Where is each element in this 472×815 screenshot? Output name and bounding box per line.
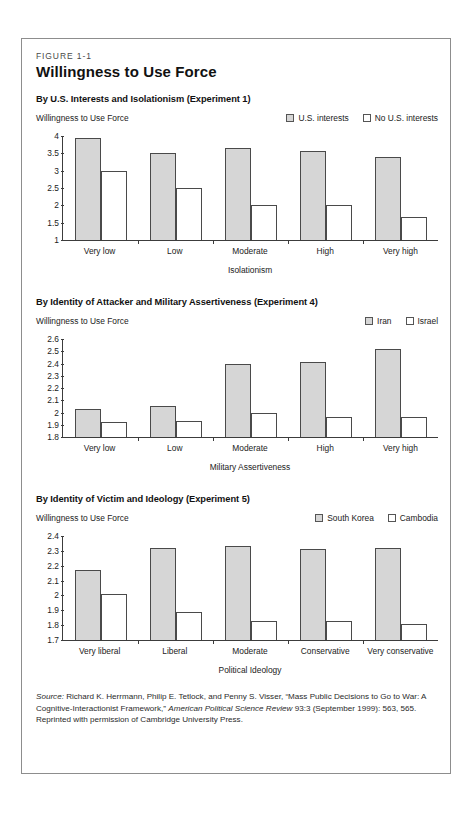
bar-groups	[63, 339, 438, 437]
bar-groups	[63, 136, 438, 240]
figure-title: Willingness to Use Force	[36, 63, 438, 80]
bar	[300, 151, 326, 240]
plot-canvas: 2.62.52.42.32.22.121.91.8	[62, 339, 438, 438]
y-axis-tick: 2	[54, 408, 63, 418]
x-axis-tick-label: Moderate	[212, 646, 287, 656]
legend-swatch-icon	[365, 317, 373, 325]
legend-label: Israel	[418, 316, 438, 326]
bar	[375, 349, 401, 437]
bar-group	[63, 339, 138, 437]
bar	[251, 621, 277, 640]
legend-swatch-icon	[406, 317, 414, 325]
chart-subtitle: By Identity of Attacker and Military Ass…	[36, 297, 438, 307]
bar	[401, 417, 427, 437]
legend-label: Cambodia	[400, 513, 438, 523]
x-axis-tick-label: Low	[137, 246, 212, 256]
bar-group	[363, 136, 438, 240]
x-axis-tick-label: Very low	[62, 246, 137, 256]
bar	[326, 621, 352, 640]
bar	[75, 409, 101, 437]
legend-item[interactable]: Cambodia	[388, 513, 438, 523]
bar	[225, 364, 251, 438]
y-axis-tick: 2.3	[47, 371, 63, 381]
legend-item[interactable]: Israel	[406, 316, 438, 326]
legend-swatch-icon	[363, 114, 371, 122]
bar-group	[363, 536, 438, 640]
x-axis-tick-label: Low	[137, 443, 212, 453]
source-note: Source: Richard K. Herrmann, Philip E. T…	[36, 691, 438, 726]
source-label: Source:	[36, 692, 64, 701]
bar	[101, 171, 127, 240]
bar-group	[213, 136, 288, 240]
y-axis-tick: 1.7	[47, 635, 63, 645]
y-axis-tick: 1.5	[47, 218, 63, 228]
y-axis-tick: 2.5	[47, 346, 63, 356]
bar	[150, 406, 176, 437]
x-axis-tick-label: Conservative	[288, 646, 363, 656]
legend-item[interactable]: Iran	[365, 316, 391, 326]
bar-group	[138, 339, 213, 437]
bar	[176, 421, 202, 437]
bar-group	[213, 339, 288, 437]
source-journal: American Political Science Review	[168, 704, 292, 713]
x-axis-tick-label: High	[288, 443, 363, 453]
bar	[300, 362, 326, 437]
bar-group	[213, 536, 288, 640]
chart-legend-row: IranIsrael	[36, 327, 438, 339]
legend-item[interactable]: No U.S. interests	[363, 113, 438, 123]
legend-item[interactable]: U.S. interests	[286, 113, 348, 123]
y-axis-tick: 2.2	[47, 383, 63, 393]
bar	[150, 153, 176, 240]
legend-swatch-icon	[286, 114, 294, 122]
figure-container: FIGURE 1-1 Willingness to Use Force By U…	[21, 38, 451, 774]
legend-item[interactable]: South Korea	[315, 513, 374, 523]
bar	[375, 548, 401, 640]
chart-subtitle: By Identity of Victim and Ideology (Expe…	[36, 494, 438, 504]
y-axis-tick: 2.3	[47, 546, 63, 556]
x-axis-tick-label: Very high	[363, 443, 438, 453]
bar	[401, 217, 427, 240]
chart-subtitle: By U.S. Interests and Isolationism (Expe…	[36, 94, 438, 104]
chart-legend-row: South KoreaCambodia	[36, 524, 438, 536]
x-axis-tick-label: Moderate	[212, 246, 287, 256]
x-axis-tick-label: Liberal	[137, 646, 212, 656]
bar	[326, 417, 352, 437]
legend-label: U.S. interests	[298, 113, 348, 123]
x-axis-title: Political Ideology	[62, 665, 438, 675]
bar-group	[363, 339, 438, 437]
y-axis-tick: 1.9	[47, 605, 63, 615]
x-axis-ticks: Very liberalLiberalModerateConservativeV…	[62, 646, 438, 656]
legend: IranIsrael	[365, 316, 438, 326]
plot-area: 43.532.521.51	[36, 136, 438, 241]
x-axis-ticks: Very lowLowModerateHighVery high	[62, 246, 438, 256]
y-axis-tick: 1.8	[47, 432, 63, 442]
bar-group	[288, 339, 363, 437]
bar-group	[288, 136, 363, 240]
bar	[176, 612, 202, 640]
x-axis-tick-label: Very low	[62, 443, 137, 453]
bar	[150, 548, 176, 640]
y-axis-tick: 4	[54, 131, 63, 141]
bar	[300, 549, 326, 640]
bar	[75, 138, 101, 240]
x-axis-tick-label: Moderate	[212, 443, 287, 453]
legend-label: No U.S. interests	[375, 113, 438, 123]
bar	[326, 205, 352, 240]
y-axis-tick: 2.1	[47, 576, 63, 586]
y-axis-tick: 2	[54, 590, 63, 600]
plot-area: 2.62.52.42.32.22.121.91.8	[36, 339, 438, 438]
y-axis-tick: 1.9	[47, 420, 63, 430]
bar	[375, 157, 401, 240]
y-axis-tick: 2.5	[47, 183, 63, 193]
y-axis-tick: 2.4	[47, 531, 63, 541]
bar	[101, 594, 127, 640]
legend: South KoreaCambodia	[315, 513, 438, 523]
x-axis-tick-label: Very liberal	[62, 646, 137, 656]
x-axis-ticks: Very lowLowModerateHighVery high	[62, 443, 438, 453]
y-axis-tick: 2.6	[47, 334, 63, 344]
y-axis-tick: 3	[54, 166, 63, 176]
plot-canvas: 2.42.32.22.121.91.81.7	[62, 536, 438, 641]
bar	[401, 624, 427, 640]
x-axis-tick-label: Very high	[363, 246, 438, 256]
x-axis-title: Military Assertiveness	[62, 462, 438, 472]
